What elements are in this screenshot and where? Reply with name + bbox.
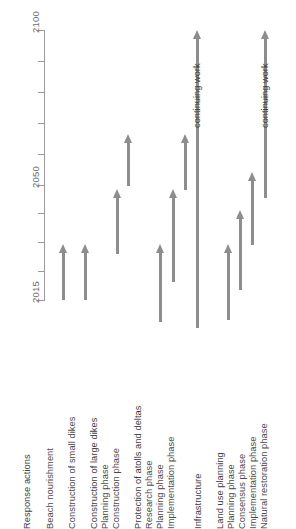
row-label-beach-nourishment: Beach nourishment	[45, 448, 55, 529]
row-label-construction-small-dikes: Construction of small dikes	[67, 417, 77, 529]
row-label-land-planning-phase: Planning phase	[226, 464, 236, 529]
row-label-atolls-planning-phase: Planning phase	[155, 464, 165, 529]
row-label-large-dikes-planning-phase: Planning phase	[100, 464, 110, 529]
row-label-land-natural-restoration-phase: Natural restoration phase	[259, 423, 269, 529]
row-label-protection-atolls-deltas: Protection of atolls and deltas	[133, 405, 143, 529]
row-label-response-actions: Response actions	[22, 454, 32, 529]
row-label-land-implementation-phase: Implementation phase	[248, 437, 258, 529]
row-label-large-dikes-construction-phase: Construction phase	[111, 448, 121, 529]
axis-tick-2045	[38, 213, 45, 214]
axis-label-2015: 2015	[30, 281, 41, 303]
axis-label-2050: 2050	[30, 166, 41, 188]
annotation-continuing-work-restoration: continuing work	[260, 63, 270, 128]
row-label-land-consensus-phase: Consensus phase	[237, 454, 247, 529]
row-label-atolls-implementation-phase: Implementation phase	[166, 437, 176, 529]
row-label-atolls-research-phase: Research phase	[144, 461, 154, 529]
chart-canvas: 2100 2050 2015	[0, 0, 296, 529]
axis-tick-2060	[38, 154, 45, 155]
axis-tick-2090	[38, 61, 45, 62]
axis-tick-2035	[38, 242, 45, 243]
row-label-land-use-planning: Land use planning	[215, 452, 225, 529]
axis-tick-2080	[38, 92, 45, 93]
axis-tick-2070	[38, 123, 45, 124]
row-label-infrastructure: Infrastructure	[193, 474, 203, 529]
row-label-construction-large-dikes: Construction of large dikes	[89, 418, 99, 529]
year-axis-line	[44, 30, 45, 300]
annotation-continuing-work-infrastructure: continuing work	[192, 63, 202, 128]
axis-label-2100: 2100	[30, 11, 41, 33]
axis-tick-2025	[38, 271, 45, 272]
